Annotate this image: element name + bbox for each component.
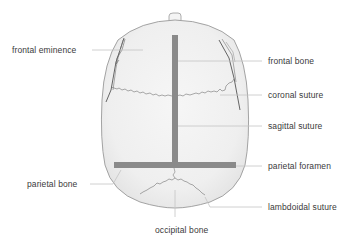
label-parietal-foramen: parietal foramen bbox=[268, 161, 331, 171]
label-parietal-bone: parietal bone bbox=[27, 179, 77, 189]
sagittal-marker-bar bbox=[172, 35, 178, 168]
label-frontal-eminence: frontal eminence bbox=[12, 45, 76, 55]
label-lambdoidal-suture: lambdoidal suture bbox=[268, 202, 337, 212]
label-frontal-bone: frontal bone bbox=[268, 56, 314, 66]
label-sagittal-suture: sagittal suture bbox=[268, 121, 322, 131]
label-occipital-bone: occipital bone bbox=[155, 225, 208, 235]
label-coronal-suture: coronal suture bbox=[268, 90, 323, 100]
parietal-marker-bar bbox=[114, 162, 236, 168]
